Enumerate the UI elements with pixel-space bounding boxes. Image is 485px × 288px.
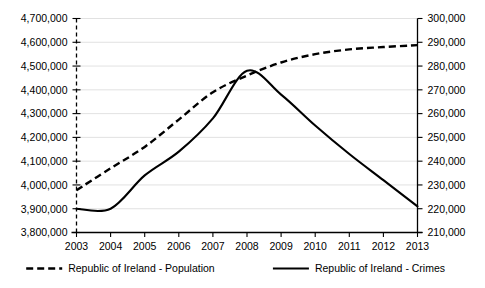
chart-container: 3,800,0003,900,0004,000,0004,100,0004,20… [0,0,485,288]
right-axis-tick-label: 250,000 [428,131,466,143]
right-axis-tick-label: 280,000 [428,60,466,72]
left-axis [73,19,81,233]
legend-label: Republic of Ireland - Population [68,262,215,274]
left-axis-tick-label: 4,000,000 [21,179,68,191]
bottom-axis [72,233,423,238]
right-axis-tick-labels: 210,000220,000230,000240,000250,000260,0… [428,12,466,238]
gridlines [77,19,418,209]
x-axis-tick-label: 2009 [269,240,293,252]
left-axis-tick-label: 4,100,000 [21,155,68,167]
right-axis-tick-label: 300,000 [428,12,466,24]
line-chart: 3,800,0003,900,0004,000,0004,100,0004,20… [0,0,485,288]
x-axis-tick-label: 2005 [133,240,157,252]
data-series [77,45,418,211]
x-axis-tick-label: 2008 [235,240,259,252]
x-axis-tick-label: 2007 [201,240,225,252]
x-axis-tick-label: 2010 [304,240,328,252]
series-line [77,70,418,211]
right-axis-tick-label: 220,000 [428,203,466,215]
right-axis-tick-label: 290,000 [428,36,466,48]
left-axis-tick-label: 3,900,000 [21,203,68,215]
left-axis-tick-label: 4,400,000 [21,84,68,96]
left-axis-tick-label: 4,600,000 [21,36,68,48]
legend-label: Republic of Ireland - Crimes [315,262,445,274]
right-axis-tick-label: 230,000 [428,179,466,191]
x-axis-tick-labels: 2003200420052006200720082009201020112012… [65,240,430,252]
x-axis-tick-label: 2006 [167,240,191,252]
x-axis-tick-label: 2012 [372,240,396,252]
left-axis-tick-labels: 3,800,0003,900,0004,000,0004,100,0004,20… [21,12,68,238]
x-axis-tick-label: 2003 [65,240,89,252]
left-axis-tick-label: 4,700,000 [21,12,68,24]
right-axis-tick-label: 260,000 [428,107,466,119]
left-axis-tick-label: 4,200,000 [21,131,68,143]
x-axis-tick-label: 2004 [99,240,123,252]
x-axis-tick-label: 2013 [406,240,430,252]
right-axis [418,19,423,233]
left-axis-tick-label: 4,300,000 [21,107,68,119]
right-axis-tick-label: 270,000 [428,84,466,96]
chart-legend: Republic of Ireland - PopulationRepublic… [26,262,445,274]
x-axis-tick-label: 2011 [338,240,361,252]
right-axis-tick-label: 210,000 [428,226,466,238]
right-axis-tick-label: 240,000 [428,155,466,167]
left-axis-tick-label: 4,500,000 [21,60,68,72]
left-axis-tick-label: 3,800,000 [21,226,68,238]
